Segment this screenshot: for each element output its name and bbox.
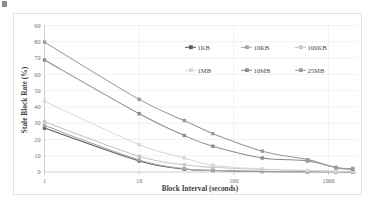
- y-axis-title: Stale Block Rate (%): [20, 66, 29, 133]
- series-25MB: [43, 40, 355, 170]
- data-point-10MB-10: [137, 112, 140, 115]
- legend-marker-100KB: [299, 45, 303, 49]
- data-point-1MB-1200: [334, 169, 337, 172]
- data-point-25MB-1800: [351, 167, 354, 170]
- y-tick-80: 80: [34, 38, 40, 45]
- x-tick-100: 100: [229, 177, 238, 184]
- legend-marker-1KB: [189, 45, 193, 49]
- data-point-10MB-1: [43, 58, 46, 61]
- data-point-25MB-600: [306, 158, 309, 161]
- data-point-25MB-10: [137, 98, 140, 101]
- y-tick-0: 0: [37, 168, 40, 175]
- series-100KB: [43, 120, 355, 173]
- legend-item-10KB[interactable]: 10KB: [241, 44, 270, 51]
- legend-label-25MB: 25MB: [308, 67, 325, 74]
- y-tick-20: 20: [34, 136, 40, 143]
- legend-item-10MB[interactable]: 10MB: [241, 67, 271, 74]
- legend-marker-10MB: [245, 68, 249, 72]
- data-point-1MB-200: [261, 167, 264, 170]
- data-point-25MB-60: [211, 132, 214, 135]
- legend-label-1MB: 1MB: [198, 67, 212, 74]
- y-tick-90: 90: [34, 22, 40, 29]
- x-tick-1: 1: [43, 177, 46, 184]
- data-point-100KB-1: [43, 120, 46, 123]
- data-point-10KB-10: [137, 158, 140, 161]
- chart-legend: 1KB10KB100KB1MB10MB25MB: [185, 44, 327, 74]
- data-point-10MB-200: [261, 156, 264, 159]
- data-point-1MB-30: [183, 156, 186, 159]
- data-point-100KB-10: [137, 155, 140, 158]
- legend-label-10KB: 10KB: [254, 44, 270, 51]
- data-point-1MB-60: [211, 163, 214, 166]
- data-point-25MB-200: [261, 149, 264, 152]
- data-point-100KB-30: [183, 163, 186, 166]
- legend-marker-1MB: [189, 68, 193, 72]
- line-chart: 0102030405060708090 1101001000 1KB10KB10…: [0, 0, 376, 209]
- data-point-1MB-1: [43, 100, 46, 103]
- legend-marker-25MB: [299, 68, 303, 72]
- legend-label-1KB: 1KB: [198, 44, 211, 51]
- y-tick-30: 30: [34, 119, 40, 126]
- y-tick-50: 50: [34, 87, 40, 94]
- data-point-10KB-1: [43, 124, 46, 127]
- data-point-25MB-30: [183, 119, 186, 122]
- y-tick-70: 70: [34, 54, 40, 61]
- x-axis-title: Block Interval (seconds): [162, 184, 239, 193]
- data-point-10MB-60: [211, 145, 214, 148]
- legend-item-25MB[interactable]: 25MB: [295, 67, 325, 74]
- series-10MB: [43, 58, 355, 171]
- legend-item-1MB[interactable]: 1MB: [185, 67, 212, 74]
- x-axis-tick-labels: 1101001000: [43, 172, 335, 184]
- x-tick-10: 10: [136, 177, 142, 184]
- chart-container: 0102030405060708090 1101001000 1KB10KB10…: [0, 0, 376, 209]
- data-point-1MB-600: [306, 169, 309, 172]
- legend-item-1KB[interactable]: 1KB: [185, 44, 211, 51]
- data-point-25MB-1: [43, 40, 46, 43]
- y-tick-60: 60: [34, 71, 40, 78]
- data-point-10KB-60: [211, 169, 214, 172]
- y-tick-40: 40: [34, 103, 40, 110]
- x-tick-1000: 1000: [322, 177, 334, 184]
- data-point-1MB-10: [137, 143, 140, 146]
- data-point-10MB-30: [183, 134, 186, 137]
- legend-item-100KB[interactable]: 100KB: [295, 44, 327, 51]
- data-point-10KB-30: [183, 167, 186, 170]
- data-point-25MB-1200: [334, 166, 337, 169]
- legend-label-100KB: 100KB: [308, 44, 328, 51]
- legend-label-10MB: 10MB: [254, 67, 271, 74]
- y-axis-tick-labels: 0102030405060708090: [34, 22, 40, 176]
- legend-marker-10KB: [245, 45, 249, 49]
- y-tick-10: 10: [34, 152, 40, 159]
